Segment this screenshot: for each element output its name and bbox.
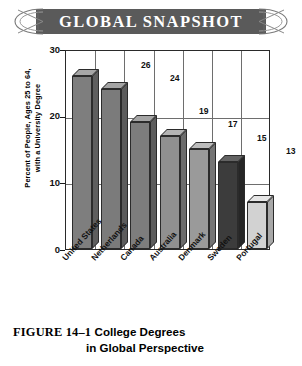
bar-value-denmark: 15 [257, 133, 267, 143]
y-tick-label-20: 20 [36, 110, 60, 121]
bar-side-face [238, 155, 245, 249]
y-tick-label-0: 0 [36, 244, 60, 255]
bar-side-face [180, 129, 187, 249]
global-snapshot-banner: GLOBAL SNAPSHOT [14, 8, 288, 35]
y-axis-label: Percent of People, Ages 25 to 64, with a… [23, 33, 47, 223]
bar-canada [130, 122, 150, 249]
bar-side-face [267, 195, 274, 249]
figure-number: FIGURE 14–1 [13, 325, 91, 339]
bar-value-united-states: 26 [141, 60, 151, 70]
bar-value-canada: 19 [199, 106, 209, 116]
bar-value-netherlands: 24 [170, 73, 180, 83]
figure-title-line2: in Global Perspective [13, 341, 293, 354]
y-tick-label-10: 10 [36, 177, 60, 188]
figure-title-line1: College Degrees [95, 325, 186, 338]
figure-caption: FIGURE 14–1 College Degrees in Global Pe… [13, 325, 293, 354]
bar-value-australia: 17 [228, 119, 238, 129]
y-axis-label-line1: Percent of People, Ages 25 to 64, [23, 68, 32, 187]
y-tick-label-30: 30 [36, 44, 60, 55]
bar-chart: Percent of People, Ages 25 to 64, with a… [0, 40, 302, 315]
banner-title: GLOBAL SNAPSHOT [36, 9, 266, 34]
caption-line1: FIGURE 14–1 College Degrees [13, 325, 293, 340]
y-axis-label-line2: with a University Degree [33, 84, 42, 172]
bar-value-sweden: 13 [286, 146, 296, 156]
bar-front-face [130, 122, 150, 249]
bar-side-face [150, 115, 157, 249]
bar-side-face [209, 142, 216, 249]
